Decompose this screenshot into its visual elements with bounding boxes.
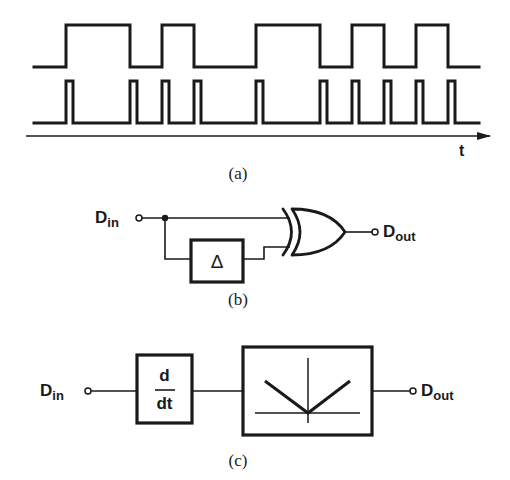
- xor-body: [292, 209, 345, 255]
- pulse-waveform: [34, 81, 479, 123]
- timing-diagram: t (a): [26, 25, 490, 183]
- output-label-dout: Dout: [421, 381, 454, 403]
- xor-edge-detector: Din Δ Dout (b): [95, 208, 416, 309]
- caption-a: (a): [229, 164, 248, 183]
- input-terminal: [136, 215, 142, 221]
- output-label-dout: Dout: [383, 222, 416, 244]
- input-label-din: Din: [40, 381, 64, 403]
- delay-symbol: Δ: [211, 251, 224, 272]
- figure-canvas: t (a) Din Δ Dout (b) Din d dt: [0, 0, 510, 480]
- xor-input-curve: [283, 209, 292, 255]
- xor-gate: [283, 209, 345, 255]
- output-terminal: [410, 388, 416, 394]
- input-terminal: [85, 388, 91, 394]
- caption-c: (c): [229, 451, 248, 470]
- branch-wire: [165, 218, 191, 259]
- time-axis-label: t: [459, 142, 465, 159]
- caption-b: (b): [228, 290, 248, 309]
- diff-denominator: dt: [156, 394, 172, 413]
- input-label-din: Din: [95, 208, 119, 230]
- output-terminal: [372, 229, 378, 235]
- differentiator-rectifier: Din d dt Dout (c): [40, 347, 454, 470]
- data-waveform: [34, 25, 479, 67]
- diff-numerator: d: [159, 366, 169, 385]
